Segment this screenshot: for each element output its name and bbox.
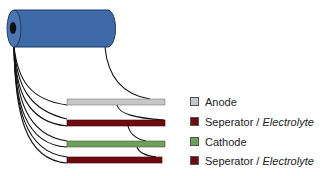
swatch-anode	[190, 97, 199, 106]
swatch-separator	[190, 156, 199, 165]
layer-separator-1	[67, 120, 165, 126]
cylinder-roll	[7, 10, 116, 47]
legend-label-italic: Electrolyte	[262, 155, 313, 167]
layer-anode	[67, 99, 165, 105]
swatch-separator	[190, 117, 199, 126]
legend-label-italic: Electrolyte	[262, 116, 313, 128]
legend-label: Cathode	[205, 136, 247, 148]
battery-diagram	[0, 0, 329, 176]
layer-separator-2	[67, 157, 162, 163]
legend-label: Anode	[205, 96, 237, 108]
legend-label: Seperator /	[205, 116, 262, 128]
swatch-cathode	[190, 137, 199, 146]
legend-label: Seperator /	[205, 155, 262, 167]
core-hole	[10, 22, 16, 34]
layer-cathode	[67, 141, 165, 147]
